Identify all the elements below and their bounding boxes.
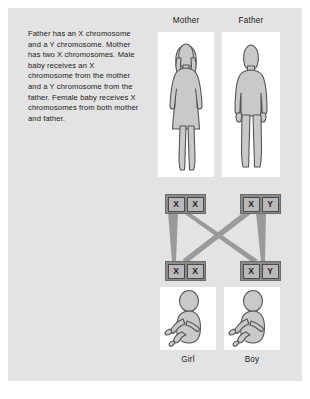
boy-chromosome-pair: X Y: [240, 261, 281, 281]
mother-chromosome-2: X: [187, 197, 204, 212]
boy-photo-card: [224, 287, 280, 350]
girl-chromosome-pair: X X: [165, 261, 206, 281]
father-label: Father: [222, 16, 280, 25]
boy-chromosome-1: X: [243, 264, 260, 279]
baby-silhouette-icon: [160, 287, 216, 350]
mother-label: Mother: [158, 16, 214, 25]
sex-chromosome-inheritance-diagram: Father has an X chromosome and a Y chrom…: [0, 0, 310, 399]
father-chromosome-2: Y: [262, 197, 279, 212]
diagram-caption: Father has an X chromosome and a Y chrom…: [28, 29, 140, 124]
baby-silhouette-icon: [224, 287, 280, 350]
boy-chromosome-2: Y: [262, 264, 279, 279]
adult-male-silhouette-icon: [222, 32, 280, 177]
mother-chromosome-1: X: [168, 197, 185, 212]
girl-label: Girl: [160, 355, 216, 364]
boy-label: Boy: [224, 355, 280, 364]
adult-female-silhouette-icon: [158, 32, 214, 177]
father-chromosome-pair: X Y: [240, 194, 281, 214]
girl-photo-card: [160, 287, 216, 350]
mother-photo-card: [158, 32, 214, 177]
father-photo-card: [222, 32, 280, 177]
girl-chromosome-2: X: [187, 264, 204, 279]
father-chromosome-1: X: [243, 197, 260, 212]
mother-chromosome-pair: X X: [165, 194, 206, 214]
girl-chromosome-1: X: [168, 264, 185, 279]
